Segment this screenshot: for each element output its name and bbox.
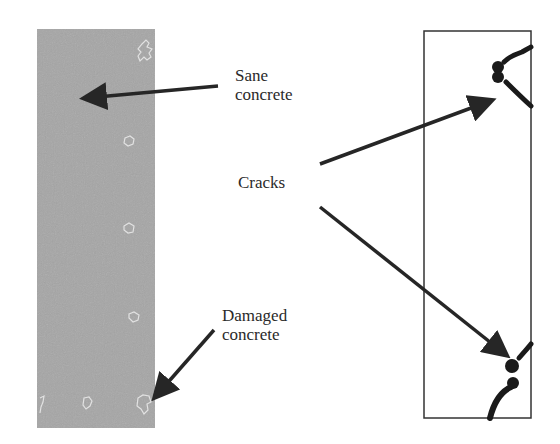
label-line: Cracks (238, 173, 285, 192)
label-cracks: Cracks (238, 173, 285, 192)
concrete-column-gray (37, 29, 155, 428)
label-line: Sane (235, 66, 293, 85)
label-damaged-concrete: Damaged concrete (222, 306, 287, 344)
label-line: Damaged (222, 306, 287, 325)
right-panel-crack-pattern (424, 31, 531, 418)
left-panel-damage-map (37, 29, 155, 428)
arrow-damaged-concrete (156, 330, 214, 396)
figure: Sane concrete Cracks Damaged concrete (0, 0, 560, 444)
label-line: concrete (222, 325, 287, 344)
label-line: concrete (235, 85, 293, 104)
label-sane-concrete: Sane concrete (235, 66, 293, 104)
